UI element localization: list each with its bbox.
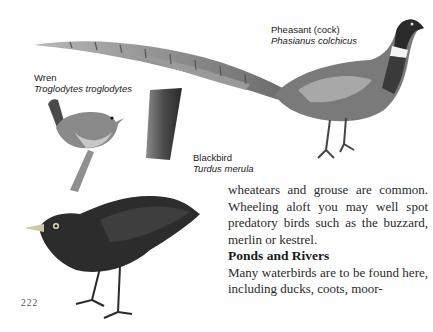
wren-caption: Wren Troglodytes troglodytes (34, 72, 132, 94)
page-number: 222 (21, 298, 38, 308)
body-paragraph-2: Many waterbirds are to be found here, in… (228, 265, 428, 298)
wren-common-name: Wren (34, 72, 132, 83)
body-text-column: wheatears and grouse are common. Wheelin… (228, 182, 428, 298)
body-paragraph-1: wheatears and grouse are common. Wheelin… (228, 182, 428, 248)
pheasant-common-name: Pheasant (cock) (271, 24, 357, 35)
section-heading: Ponds and Rivers (228, 248, 428, 265)
pheasant-caption: Pheasant (cock) Phasianus colchicus (271, 24, 357, 46)
book-page: Pheasant (cock) Phasianus colchicus Wren… (0, 0, 433, 332)
blackbird-caption: Blackbird Turdus merula (193, 152, 254, 174)
wren-illustration (48, 99, 124, 192)
pheasant-latin-name: Phasianus colchicus (271, 35, 357, 46)
blackbird-common-name: Blackbird (193, 152, 254, 163)
wren-latin-name: Troglodytes troglodytes (34, 83, 132, 94)
blackbird-latin-name: Turdus merula (193, 163, 254, 174)
